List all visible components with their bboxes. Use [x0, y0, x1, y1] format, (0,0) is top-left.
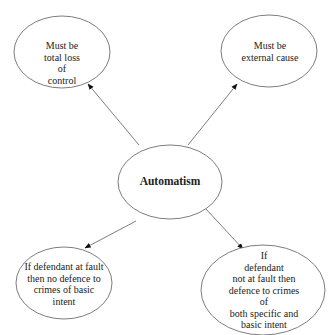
- node-center-label: Automatism: [140, 176, 201, 188]
- edge-to-top-right: [188, 84, 237, 145]
- node-bottom-right-label: If defendant not at fault then defence t…: [228, 250, 300, 331]
- node-bottom-left-label: If defendant at fault then no defence to…: [24, 261, 103, 307]
- node-top-right-label: Must be external cause: [242, 40, 299, 63]
- edge-to-bottom-left: [85, 221, 136, 248]
- edge-to-top-left: [88, 84, 139, 145]
- node-top-left-label: Must be total loss of control: [44, 40, 80, 86]
